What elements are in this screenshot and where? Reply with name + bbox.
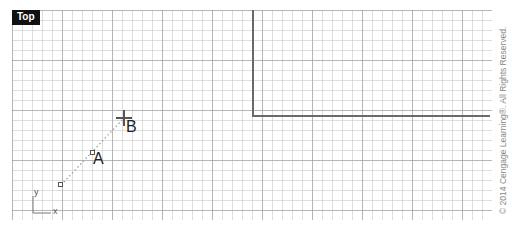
axis-y-label: y xyxy=(34,187,39,197)
start-point-marker xyxy=(59,183,63,187)
copyright-notice: © 2014 Cengage Learning®. All Rights Res… xyxy=(498,27,508,214)
point-b-label: B xyxy=(126,118,137,136)
drawing-overlay xyxy=(0,0,512,234)
world-axes-icon xyxy=(33,196,51,213)
axis-x-label: x xyxy=(53,206,58,216)
point-a-label: A xyxy=(93,150,104,168)
